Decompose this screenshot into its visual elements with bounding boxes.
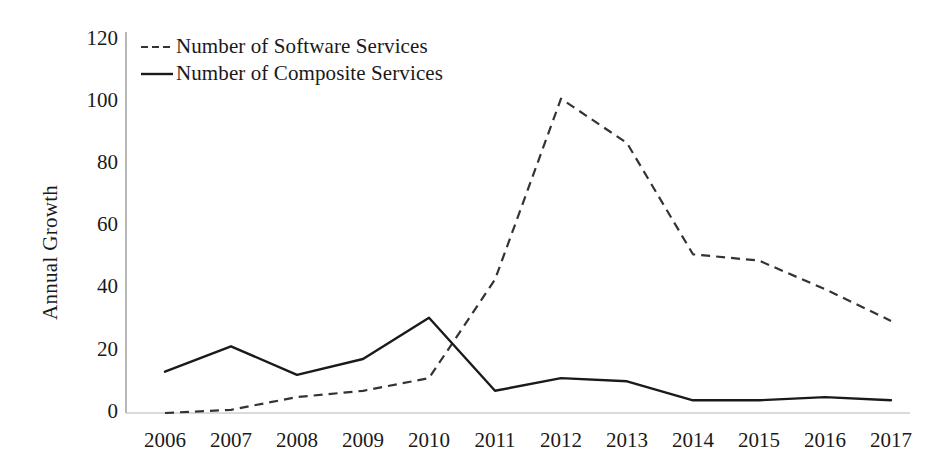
- series-line-composite: [165, 318, 891, 401]
- legend-label-software: Number of Software Services: [176, 34, 428, 59]
- solid-line-icon: [140, 68, 174, 80]
- dashed-line-icon: [140, 41, 174, 53]
- legend-item-composite: Number of Composite Services: [140, 60, 480, 87]
- legend-label-composite: Number of Composite Services: [176, 61, 443, 86]
- line-chart: Annual Growth 120 100 80 60 40 20 0 2006…: [0, 0, 931, 471]
- legend-item-software: Number of Software Services: [140, 33, 480, 60]
- legend: Number of Software Services Number of Co…: [140, 33, 480, 87]
